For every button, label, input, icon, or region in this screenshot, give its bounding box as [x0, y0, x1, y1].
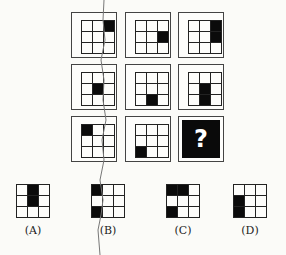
empty-square [147, 84, 157, 94]
empty-square [189, 185, 199, 195]
empty-square [256, 207, 266, 217]
empty-square [189, 43, 199, 53]
pattern-grid [81, 20, 115, 54]
pattern-grid [188, 72, 222, 106]
empty-square [93, 43, 103, 53]
filled-square [211, 21, 221, 31]
empty-square [104, 32, 114, 42]
empty-square [189, 196, 199, 206]
empty-square [200, 32, 210, 42]
filled-square [167, 207, 177, 217]
empty-square [39, 185, 49, 195]
empty-square [158, 95, 168, 105]
empty-square [82, 73, 92, 83]
empty-square [82, 95, 92, 105]
answer-option-c[interactable]: (C) [166, 184, 200, 218]
empty-square [189, 95, 199, 105]
filled-square [211, 32, 221, 42]
empty-square [28, 207, 38, 217]
matrix-cell [178, 64, 224, 110]
empty-square [136, 136, 146, 146]
empty-square [245, 196, 255, 206]
empty-square [178, 207, 188, 217]
filled-square [200, 95, 210, 105]
empty-square [103, 196, 113, 206]
filled-square [92, 185, 102, 195]
empty-square [245, 207, 255, 217]
empty-square [103, 207, 113, 217]
filled-square [158, 32, 168, 42]
empty-square [104, 73, 114, 83]
empty-square [114, 185, 124, 195]
empty-square [136, 43, 146, 53]
empty-square [104, 136, 114, 146]
option-label: (B) [87, 224, 129, 237]
empty-square [82, 32, 92, 42]
pattern-grid [135, 124, 169, 158]
matrix-cell [71, 64, 117, 110]
empty-square [92, 196, 102, 206]
empty-square [17, 196, 27, 206]
filled-square [178, 185, 188, 195]
option-label: (C) [162, 224, 204, 237]
empty-square [158, 147, 168, 157]
empty-square [93, 147, 103, 157]
empty-square [136, 32, 146, 42]
option-pattern-grid [91, 184, 125, 218]
empty-square [189, 84, 199, 94]
empty-square [104, 147, 114, 157]
matrix-cell [125, 12, 171, 58]
empty-square [114, 207, 124, 217]
empty-square [93, 136, 103, 146]
empty-square [147, 136, 157, 146]
empty-square [158, 84, 168, 94]
empty-square [104, 43, 114, 53]
empty-square [93, 73, 103, 83]
filled-square [200, 84, 210, 94]
empty-square [189, 73, 199, 83]
empty-square [147, 43, 157, 53]
empty-square [200, 21, 210, 31]
filled-square [28, 185, 38, 195]
empty-square [189, 21, 199, 31]
empty-square [147, 73, 157, 83]
empty-square [178, 196, 188, 206]
pattern-grid [135, 20, 169, 54]
empty-square [211, 73, 221, 83]
empty-square [82, 136, 92, 146]
question-cell: ? [178, 116, 224, 162]
option-label: (D) [229, 224, 271, 237]
empty-square [82, 84, 92, 94]
empty-square [136, 84, 146, 94]
filled-square [147, 95, 157, 105]
filled-square [104, 21, 114, 31]
empty-square [39, 196, 49, 206]
pattern-grid [188, 20, 222, 54]
empty-square [82, 21, 92, 31]
question-mark-icon: ? [182, 120, 220, 158]
empty-square [167, 196, 177, 206]
empty-square [158, 136, 168, 146]
answer-option-a[interactable]: (A) [16, 184, 50, 218]
filled-square [93, 84, 103, 94]
answer-option-b[interactable]: (B) [91, 184, 125, 218]
empty-square [82, 147, 92, 157]
empty-square [158, 125, 168, 135]
empty-square [93, 21, 103, 31]
empty-square [93, 95, 103, 105]
empty-square [158, 21, 168, 31]
option-pattern-grid [16, 184, 50, 218]
empty-square [136, 21, 146, 31]
empty-square [93, 125, 103, 135]
empty-square [104, 95, 114, 105]
answer-option-d[interactable]: (D) [233, 184, 267, 218]
empty-square [147, 32, 157, 42]
empty-square [39, 207, 49, 217]
filled-square [136, 147, 146, 157]
empty-square [136, 125, 146, 135]
pattern-grid [81, 124, 115, 158]
empty-square [147, 125, 157, 135]
empty-square [103, 185, 113, 195]
empty-square [200, 43, 210, 53]
empty-square [211, 84, 221, 94]
